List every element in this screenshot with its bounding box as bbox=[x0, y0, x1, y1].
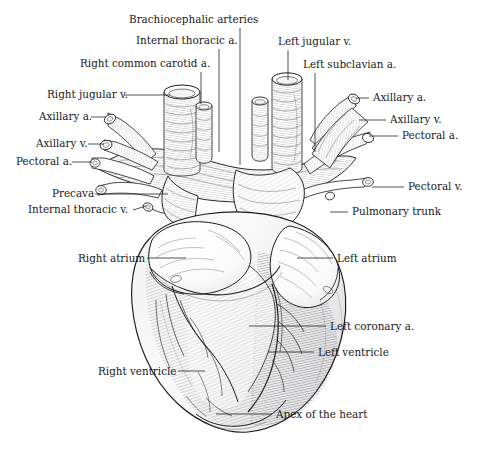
label-left-subclavian-a: Left subclavian a. bbox=[303, 58, 396, 70]
label-pectoral-a-right: Pectoral a. bbox=[402, 129, 458, 141]
heart-diagram-svg: Brachiocephalic arteries Internal thorac… bbox=[0, 0, 479, 461]
label-pulmonary-trunk: Pulmonary trunk bbox=[352, 205, 442, 217]
label-internal-thoracic-a: Internal thoracic a. bbox=[136, 34, 238, 46]
anatomical-figure: Brachiocephalic arteries Internal thorac… bbox=[0, 0, 479, 461]
label-brachiocephalic-arteries: Brachiocephalic arteries bbox=[129, 13, 258, 25]
label-right-ventricle: Right ventricle bbox=[98, 365, 176, 377]
label-axillary-v-right: Axillary v. bbox=[389, 113, 442, 125]
label-right-jugular-v: Right jugular v. bbox=[47, 88, 128, 100]
label-right-common-carotid-a: Right common carotid a. bbox=[80, 57, 210, 69]
label-right-atrium: Right atrium bbox=[78, 252, 145, 264]
label-left-coronary-a: Left coronary a. bbox=[330, 320, 414, 332]
label-left-ventricle: Left ventricle bbox=[318, 346, 389, 358]
right-jugular-vein-tube bbox=[164, 85, 200, 176]
label-pectoral-a-left: Pectoral a. bbox=[16, 155, 72, 167]
label-axillary-a-right: Axillary a. bbox=[372, 91, 426, 103]
right-common-carotid-tube bbox=[196, 102, 212, 163]
label-left-jugular-v: Left jugular v. bbox=[278, 35, 351, 47]
label-apex-of-the-heart: Apex of the heart bbox=[275, 408, 368, 420]
label-precava: Precava bbox=[52, 187, 94, 199]
label-axillary-v-left: Axillary v. bbox=[35, 137, 88, 149]
left-jugular-vein-tube bbox=[272, 73, 302, 174]
left-small-vein-tube bbox=[252, 97, 268, 161]
label-pectoral-v-right: Pectoral v. bbox=[408, 180, 463, 192]
label-axillary-a-left: Axillary a. bbox=[38, 110, 92, 122]
label-internal-thoracic-v: Internal thoracic v. bbox=[28, 203, 128, 215]
label-left-atrium: Left atrium bbox=[337, 252, 397, 264]
